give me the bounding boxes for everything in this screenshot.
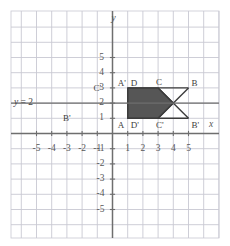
- y-tick-neg2: -2: [97, 159, 105, 169]
- x-tick-neg4: -4: [48, 144, 56, 154]
- y-tick-neg1: -1: [97, 144, 105, 154]
- y-tick-1: 1: [99, 114, 104, 124]
- vertex-label-C: C: [156, 78, 162, 87]
- stray-label-Bprime-1: B': [63, 114, 71, 123]
- vertex-label-A: A: [118, 121, 125, 130]
- stray-label-Cprime-0: C': [93, 83, 101, 92]
- y-tick-neg3: -3: [97, 174, 105, 184]
- vertex-label-Dprime: D': [131, 121, 139, 130]
- x-tick-5: 5: [186, 144, 191, 154]
- vertex-label-Cprime: C': [156, 121, 164, 130]
- y-tick-neg5: -5: [97, 205, 105, 215]
- figure-canvas: -5-4-3-2-11234554321-1-2-3-4-5xyy = 2A'D…: [0, 0, 230, 246]
- x-tick-neg3: -3: [63, 144, 71, 154]
- y-axis-label: y: [111, 14, 115, 24]
- x-tick-1: 1: [125, 144, 130, 154]
- y-tick-2: 2: [99, 98, 104, 108]
- vertex-label-B: B: [192, 79, 198, 88]
- vertex-label-Aprime: A': [118, 79, 126, 88]
- vertex-label-D: D: [131, 79, 138, 88]
- x-tick-4: 4: [171, 144, 176, 154]
- x-tick-3: 3: [156, 144, 161, 154]
- y-tick-neg4: -4: [97, 190, 105, 200]
- y-tick-4: 4: [99, 68, 104, 78]
- vertex-label-Bprime: B': [192, 121, 200, 130]
- grid-lines: [11, 11, 219, 238]
- y-tick-5: 5: [99, 53, 104, 63]
- x-axis-label: x: [209, 120, 213, 130]
- x-tick-neg5: -5: [33, 144, 41, 154]
- x-tick-neg2: -2: [78, 144, 86, 154]
- line-equation-label: y = 2: [14, 98, 33, 108]
- x-tick-2: 2: [141, 144, 146, 154]
